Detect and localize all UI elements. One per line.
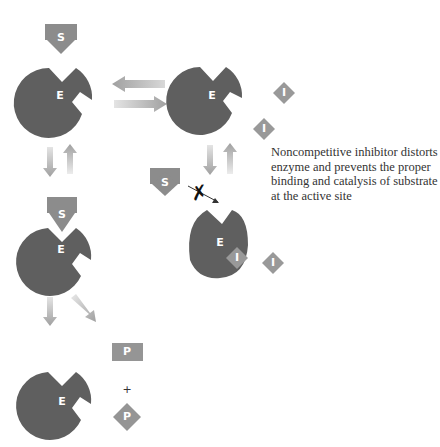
inhibitor-label: I bbox=[278, 86, 290, 99]
equilibrium-arrows-vertical-left bbox=[43, 144, 77, 177]
arrow-up-icon bbox=[223, 143, 237, 174]
state-enzyme-substrate-complex bbox=[16, 197, 91, 296]
enzyme-label: E bbox=[206, 89, 218, 102]
substrate-label: S bbox=[159, 176, 171, 189]
enzyme-label: E bbox=[56, 395, 68, 408]
enzyme-shape bbox=[166, 67, 242, 135]
arrow-left-icon bbox=[112, 76, 165, 92]
arrow-down-icon bbox=[43, 297, 57, 326]
product-label: P bbox=[121, 410, 133, 423]
plus-sign: + bbox=[121, 383, 133, 396]
equilibrium-arrows-vertical-right bbox=[203, 143, 237, 175]
product-arrows bbox=[43, 294, 96, 326]
inhibitor-label: I bbox=[231, 251, 243, 264]
substrate-label: S bbox=[55, 31, 67, 44]
enzyme-label: E bbox=[54, 89, 66, 102]
cross-mark-icon: ✗ bbox=[189, 179, 210, 206]
inhibitor-label: I bbox=[267, 256, 279, 269]
equilibrium-arrows-horizontal bbox=[112, 76, 167, 112]
arrow-diagonal-icon bbox=[71, 294, 96, 322]
enzyme-shape bbox=[16, 372, 91, 440]
enzyme-shape bbox=[14, 68, 92, 138]
diagram-canvas: ✗ bbox=[0, 0, 440, 447]
state-free-enzyme-inhibitor bbox=[166, 67, 295, 140]
enzyme-label: E bbox=[214, 236, 226, 249]
enzyme-label: E bbox=[55, 243, 67, 256]
arrow-down-icon bbox=[203, 145, 217, 175]
substrate-label: S bbox=[56, 208, 68, 221]
state-free-enzyme-substrate bbox=[14, 24, 92, 138]
arrow-up-icon bbox=[63, 144, 77, 174]
arrow-right-icon bbox=[114, 96, 167, 112]
enzyme-shape bbox=[16, 228, 91, 296]
arrow-down-icon bbox=[43, 147, 57, 177]
caption-text: Noncompetitive inhibitor distorts enzyme… bbox=[271, 145, 440, 203]
inhibitor-label: I bbox=[258, 122, 270, 135]
arrow-head-icon bbox=[212, 198, 219, 203]
product-label: P bbox=[121, 345, 133, 358]
